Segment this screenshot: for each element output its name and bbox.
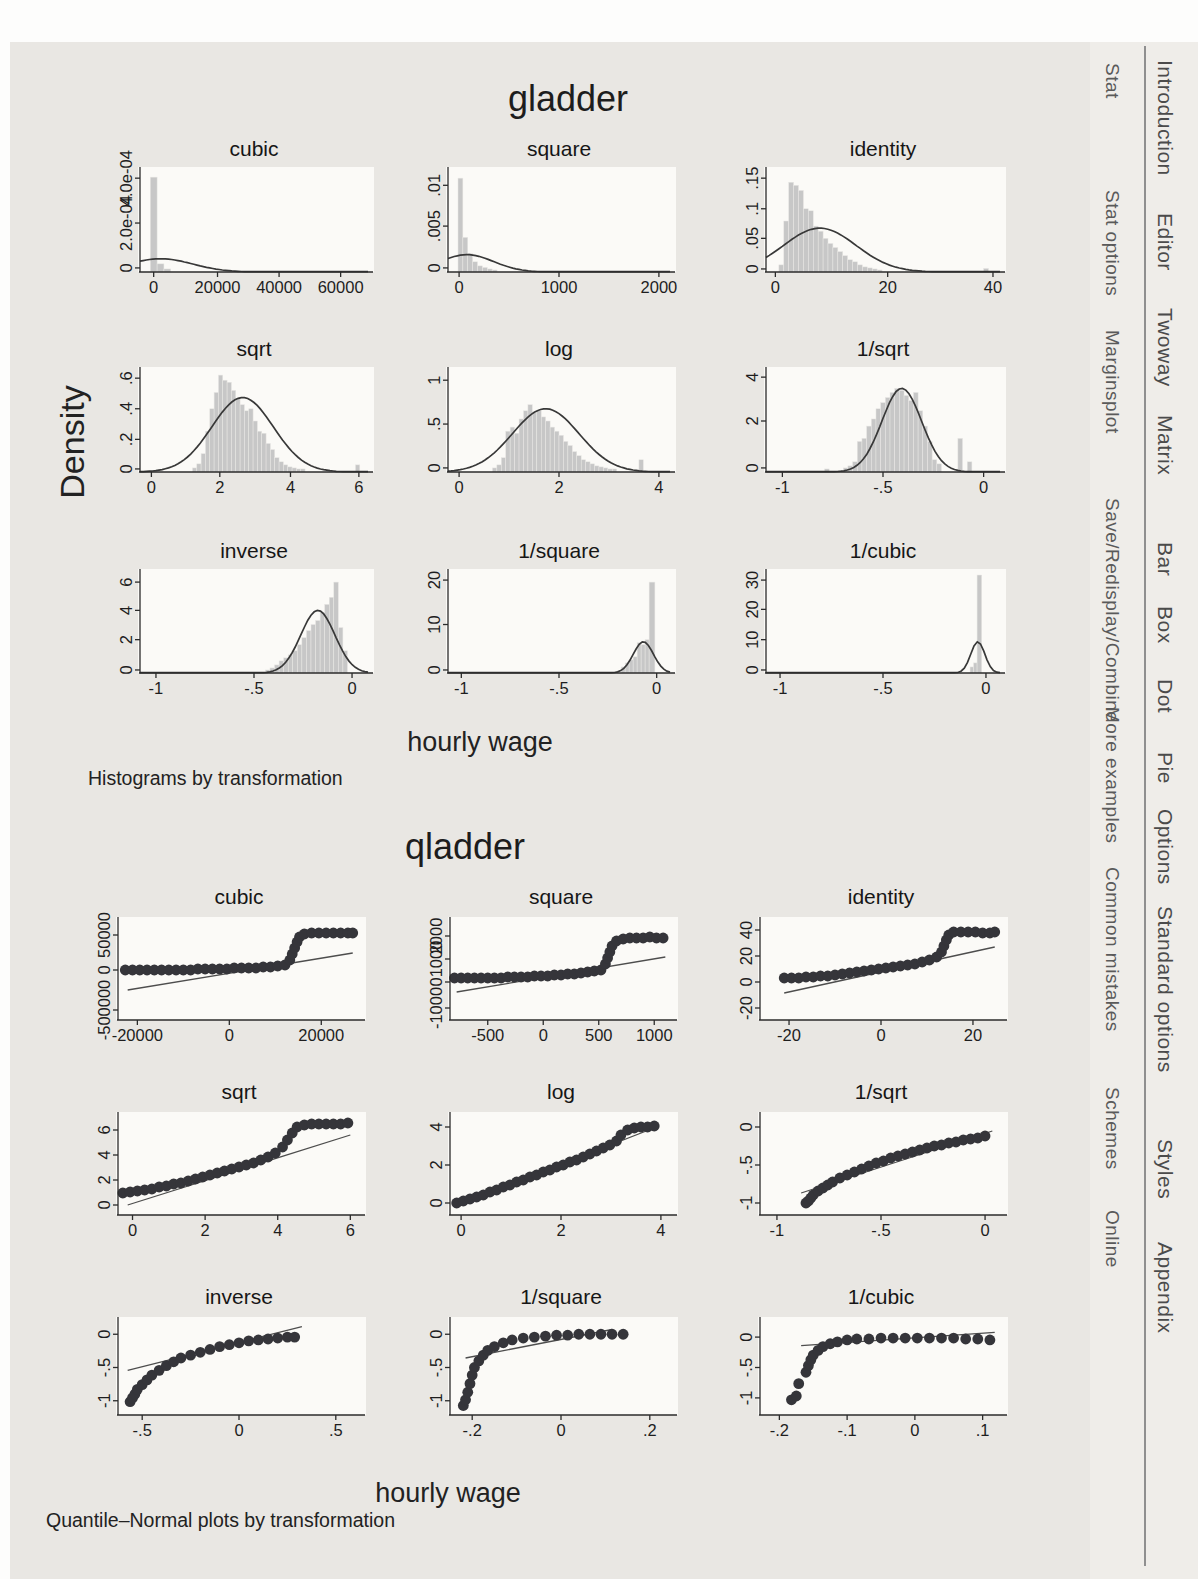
histogram-bar — [970, 667, 974, 673]
y-tick-label: 2 — [427, 1160, 445, 1169]
y-tick-label: -.5 — [737, 1155, 755, 1174]
y-tick-label: 2 — [95, 1175, 113, 1184]
y-tick-label: .5 — [425, 417, 443, 431]
histogram-bar — [857, 441, 862, 472]
panel-title: sqrt — [221, 1080, 256, 1103]
y-tick-label: 20 — [425, 571, 443, 589]
histogram-bar — [236, 399, 240, 472]
y-tick-label: 4 — [427, 1122, 445, 1131]
histogram-bar — [262, 433, 266, 472]
x-tick-label: 0 — [234, 1421, 243, 1439]
y-tick-label: 0 — [95, 965, 113, 974]
edge-tab-online: Online — [1101, 1210, 1123, 1268]
x-tick-label: .5 — [329, 1421, 343, 1439]
x-tick-label: 4 — [273, 1221, 282, 1239]
qq-point — [551, 1330, 562, 1341]
x-tick-label: 20 — [879, 278, 897, 296]
y-tick-label: 0 — [743, 665, 761, 674]
panel-title: cubic — [229, 137, 278, 160]
x-tick-label: 0 — [455, 278, 464, 296]
qq-point — [195, 1347, 206, 1358]
x-tick-label: 6 — [346, 1221, 355, 1239]
edge-tab-editor: Editor — [1153, 213, 1177, 271]
histogram-bar — [932, 460, 937, 472]
panel-plot-area — [116, 1317, 366, 1415]
histogram-bar — [334, 582, 339, 673]
y-tick-label: 0 — [737, 1122, 755, 1131]
qq-point — [607, 1329, 618, 1340]
y-tick-label: 30 — [743, 571, 761, 589]
panel-square: square-50005001000-1000010002000 — [427, 885, 678, 1044]
histogram-bar — [572, 452, 576, 472]
y-tick-label: -.5 — [427, 1358, 445, 1377]
qq-point — [658, 933, 669, 944]
histogram-bar — [214, 392, 218, 472]
x-tick-label: -.5 — [133, 1421, 152, 1439]
qq-point — [272, 1333, 283, 1344]
histogram-bar — [501, 458, 505, 472]
edge-tab-dot: Dot — [1153, 679, 1177, 713]
y-tick-label: .2 — [117, 432, 135, 446]
qq-point — [989, 927, 1000, 938]
histogram-bar — [257, 431, 261, 472]
x-tick-label: 0 — [147, 478, 156, 496]
histogram-bar — [244, 411, 248, 472]
histogram-bar — [546, 421, 550, 472]
histogram-bar — [568, 445, 572, 472]
histogram-bar — [210, 409, 214, 472]
histogram-bar — [967, 462, 972, 472]
x-tick-label: 0 — [652, 679, 661, 697]
histogram-bar — [958, 438, 963, 472]
x-tick-label: 40000 — [256, 278, 302, 296]
edge-tab-standard-options: Standard options — [1153, 906, 1177, 1073]
y-tick-label: 4 — [117, 606, 135, 615]
panel-identity: identity-20020-2002040 — [737, 885, 1008, 1044]
y-tick-label: 0 — [743, 463, 761, 472]
histogram-bar — [329, 597, 334, 673]
histogram-bar — [559, 435, 563, 472]
qq-point — [214, 1341, 225, 1352]
x-tick-label: -1 — [770, 1221, 785, 1239]
panel-1-sqrt: 1/sqrt-1-.50024 — [743, 337, 1006, 496]
y-tick-label: 0 — [425, 665, 443, 674]
histogram-bar — [577, 456, 581, 472]
qq-point — [176, 1353, 187, 1364]
histogram-bar — [555, 431, 559, 472]
y-tick-label: .15 — [743, 167, 761, 190]
qq-point — [649, 1121, 660, 1132]
x-tick-label: -.5 — [549, 679, 568, 697]
panel-title: 1/square — [518, 539, 600, 562]
qq-point — [562, 1330, 573, 1341]
y-tick-label: .005 — [425, 210, 443, 242]
qq-point — [343, 1118, 354, 1129]
edge-tab-twoway: Twoway — [1153, 308, 1177, 387]
histogram-bar — [197, 464, 201, 472]
panel-1-cubic: 1/cubic-.2-.10.1-1-.50 — [737, 1285, 1008, 1439]
qq-point — [791, 1391, 802, 1402]
y-tick-label: 0 — [743, 264, 761, 273]
histogram-bar — [316, 620, 321, 673]
histogram-bar — [205, 431, 209, 472]
edge-tab-save-redisplay-combine: Save/Redisplay/Combine — [1101, 498, 1123, 722]
edge-tab-stat-options: Stat options — [1101, 190, 1123, 296]
histogram-bar — [779, 265, 784, 272]
histogram-bar — [848, 260, 853, 272]
panel-inverse: inverse-1-.500246 — [117, 539, 374, 697]
qq-point — [185, 1350, 196, 1361]
panel-title: sqrt — [236, 337, 271, 360]
histogram-bar — [223, 380, 227, 472]
panel-1-square: 1/square-.20.2-1-.50 — [427, 1285, 678, 1439]
histogram-bar — [794, 185, 799, 272]
edge-tab-pie: Pie — [1153, 752, 1177, 784]
edge-tab-box: Box — [1153, 606, 1177, 644]
histogram-bar — [633, 657, 637, 673]
x-tick-label: -1 — [454, 679, 469, 697]
x-tick-label: 4 — [656, 1221, 665, 1239]
panel-1-sqrt: 1/sqrt-1-.50-1-.50 — [737, 1080, 1008, 1239]
x-tick-label: -1 — [775, 478, 790, 496]
y-tick-label: 2000 — [427, 918, 445, 955]
histogram-bar — [325, 604, 330, 673]
qq-point — [980, 1131, 991, 1142]
histogram-bar — [977, 575, 982, 673]
histogram-bar — [468, 254, 473, 272]
